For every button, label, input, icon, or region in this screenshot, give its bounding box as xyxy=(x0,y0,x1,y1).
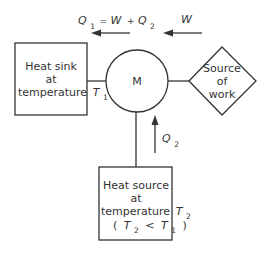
q1-equals: = xyxy=(99,16,107,26)
q1-flow-arrow: Q 1 = W + Q 2 xyxy=(78,14,155,37)
heat-sink-line2: at xyxy=(45,73,57,86)
machine-label: M xyxy=(132,75,142,88)
condition-b-sub: 1 xyxy=(171,226,176,235)
w-arrowhead-icon xyxy=(163,30,173,37)
work-source-line2: of xyxy=(217,75,229,88)
q2-arrowhead-icon xyxy=(152,115,159,125)
heat-sink-box: Heat sink at temperature T 1 xyxy=(15,43,108,115)
heat-sink-temperature-word: temperature xyxy=(18,86,87,99)
heat-sink-temp-sub: 1 xyxy=(103,93,108,102)
work-source-line3: work xyxy=(209,88,236,101)
work-source-line1: Source xyxy=(203,62,241,75)
heat-source-temperature-word: temperature xyxy=(101,205,170,218)
q2-sub: 2 xyxy=(174,140,179,149)
q1-q2-symbol: Q xyxy=(138,14,147,27)
q2-flow-arrow: Q 2 xyxy=(152,115,180,153)
q1-symbol: Q xyxy=(78,14,87,27)
q2-flow-label: Q 2 xyxy=(162,132,179,149)
condition-operator: < xyxy=(145,219,154,232)
q1-flow-label: Q 1 = W + Q 2 xyxy=(78,14,155,32)
q2-symbol: Q xyxy=(162,132,171,145)
q1-q2-sub: 2 xyxy=(150,22,155,31)
condition-a-sub: 2 xyxy=(134,226,139,235)
heat-source-line1: Heat source xyxy=(103,179,169,192)
q1-w: W xyxy=(111,14,123,27)
heat-sink-temp-symbol: T xyxy=(93,86,101,99)
w-flow-label: W xyxy=(181,13,193,26)
condition-b-symbol: T xyxy=(161,219,169,232)
heat-source-temp-symbol: T xyxy=(176,205,184,218)
heat-sink-line1: Heat sink xyxy=(25,60,77,73)
heat-source-box: Heat source at temperature T 2 ( T 2 < T… xyxy=(99,167,191,240)
condition-close-paren: ) xyxy=(183,219,187,232)
condition-open-paren: ( xyxy=(113,219,117,232)
machine-circle: M xyxy=(106,50,168,112)
work-source-diamond: Source of work xyxy=(189,47,256,115)
q1-plus: + xyxy=(127,16,135,26)
heat-source-line2: at xyxy=(130,192,142,205)
w-flow-arrow: W xyxy=(163,13,202,37)
condition-a-symbol: T xyxy=(124,219,132,232)
q1-sub: 1 xyxy=(90,22,95,31)
energy-flow-diagram: Heat sink at temperature T 1 M Source of… xyxy=(0,0,268,253)
